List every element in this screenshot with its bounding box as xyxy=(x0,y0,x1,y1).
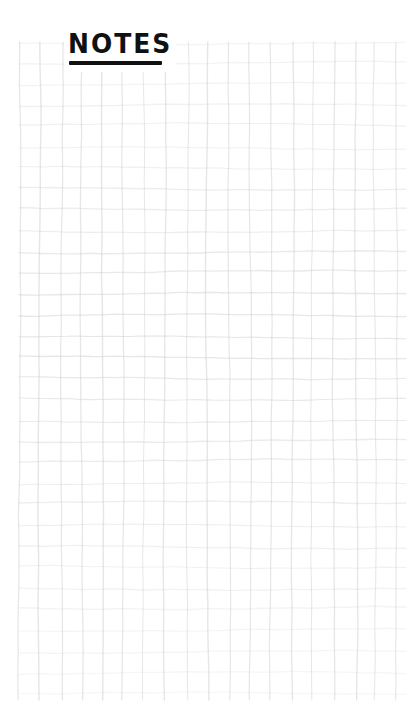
grid-line-vertical xyxy=(122,42,124,700)
grid-line-vertical xyxy=(38,42,41,700)
grid-line-vertical xyxy=(80,42,83,700)
grid-line-horizontal xyxy=(19,104,406,107)
grid-line-horizontal xyxy=(19,251,406,254)
grid-line-horizontal xyxy=(19,377,406,380)
grid-line-horizontal xyxy=(19,565,406,568)
grid-line-horizontal xyxy=(19,123,406,126)
grid-line-vertical xyxy=(373,42,376,700)
grid-line-vertical xyxy=(61,42,64,700)
grid-line-horizontal xyxy=(19,166,406,169)
grid-line-horizontal xyxy=(19,459,406,462)
grid-line-horizontal xyxy=(19,147,406,150)
grid-line-horizontal xyxy=(19,588,406,590)
grid-line-horizontal xyxy=(19,671,406,674)
title-block: NOTES xyxy=(64,31,176,72)
grid-line-horizontal xyxy=(19,545,406,549)
grid-line-vertical xyxy=(18,42,21,700)
grid-line-horizontal xyxy=(19,356,406,359)
grid-line-horizontal xyxy=(19,650,406,653)
note-page: NOTES xyxy=(0,0,407,725)
grid-line-horizontal xyxy=(19,628,406,631)
grid-line-vertical xyxy=(396,42,398,700)
notebook-grid xyxy=(0,0,407,725)
title-underline xyxy=(69,61,162,65)
grid-line-vertical xyxy=(228,42,231,700)
grid-line-vertical xyxy=(186,42,189,700)
grid-line-horizontal xyxy=(19,82,406,85)
grid-line-vertical xyxy=(311,42,314,700)
grid-line-horizontal xyxy=(19,692,406,694)
grid-line-horizontal xyxy=(19,230,406,233)
grid-line-horizontal xyxy=(19,187,406,190)
grid-line-vertical xyxy=(291,42,294,700)
grid-line-horizontal xyxy=(19,501,406,504)
grid-line-horizontal xyxy=(19,336,406,339)
grid-line-vertical xyxy=(142,42,145,700)
grid-line-horizontal xyxy=(19,439,406,442)
grid-line-vertical xyxy=(355,42,358,700)
grid-line-vertical xyxy=(163,42,166,700)
grid-line-horizontal xyxy=(19,482,406,485)
grid-line-vertical xyxy=(205,42,208,700)
grid-line-horizontal xyxy=(19,270,406,273)
grid-line-vertical xyxy=(249,42,252,700)
grid-line-vertical xyxy=(269,42,272,700)
grid-line-vertical xyxy=(101,42,103,700)
grid-line-horizontal xyxy=(19,292,406,295)
page-title: NOTES xyxy=(68,29,176,61)
grid-line-horizontal xyxy=(19,524,406,527)
grid-line-horizontal xyxy=(19,208,406,211)
grid-line-horizontal xyxy=(19,398,406,401)
grid-line-horizontal xyxy=(19,314,406,317)
grid-line-horizontal xyxy=(19,420,406,423)
grid-line-vertical xyxy=(332,42,335,700)
grid-line-horizontal xyxy=(19,606,406,609)
